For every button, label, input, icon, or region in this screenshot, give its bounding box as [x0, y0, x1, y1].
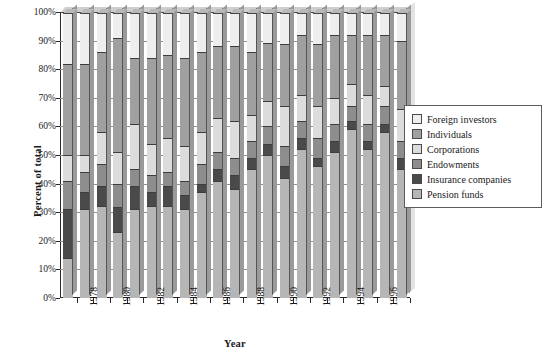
bar-3d-side	[122, 4, 127, 294]
bar	[63, 12, 73, 298]
legend-swatch-icon	[412, 129, 422, 139]
x-axis-tick-label: 1996	[389, 287, 399, 306]
bar	[363, 12, 373, 298]
legend-item: Endowments	[412, 158, 535, 170]
bar-3d-side	[206, 4, 211, 294]
x-axis-tick-label: 1978	[89, 287, 99, 306]
legend-item: Insurance companies	[412, 173, 535, 185]
bar-3d-side	[356, 4, 361, 294]
bar-3d-side	[239, 4, 244, 294]
y-axis-tick-label: 70%	[39, 93, 56, 103]
bar-3d-side	[156, 4, 161, 294]
legend: Foreign investorsIndividualsCorporations…	[404, 105, 542, 208]
x-axis-tick-label: 1990	[289, 287, 299, 306]
bar-3d-side	[306, 4, 311, 294]
x-axis-tick-label: 1992	[322, 287, 332, 306]
bar	[347, 12, 357, 298]
legend-swatch-icon	[412, 114, 422, 124]
legend-item: Corporations	[412, 143, 535, 155]
x-axis-tick-mark	[243, 298, 244, 303]
y-axis-tick-label: 30%	[39, 207, 56, 217]
bar	[280, 12, 290, 298]
y-axis-tick-label: 10%	[39, 264, 56, 274]
legend-item: Pension funds	[412, 188, 535, 200]
x-axis-tick-label: 1984	[189, 287, 199, 306]
y-axis-tick-label: 90%	[39, 36, 56, 46]
legend-item-label: Endowments	[427, 159, 479, 170]
bar-3d-side	[189, 4, 194, 294]
plot-area: 1978198019821984198619881990199219941996	[60, 12, 410, 298]
bar	[80, 12, 90, 298]
legend-swatch-icon	[412, 144, 422, 154]
bar-3d-side	[139, 4, 144, 294]
x-axis-tick-mark	[343, 298, 344, 303]
bar	[97, 12, 107, 298]
x-axis-title: Year	[60, 338, 410, 349]
y-axis-tick-label: 40%	[39, 179, 56, 189]
x-axis-tick-label: 1994	[356, 287, 366, 306]
y-axis-tick-labels: 0%10%20%30%40%50%60%70%80%90%100%	[12, 0, 56, 361]
legend-item-label: Insurance companies	[427, 174, 511, 185]
x-axis-tick-mark	[210, 298, 211, 303]
legend-item-label: Foreign investors	[427, 114, 497, 125]
legend-swatch-icon	[412, 174, 422, 184]
bar-3d-side	[89, 4, 94, 294]
bar-3d-side	[372, 4, 377, 294]
bar	[247, 12, 257, 298]
y-axis-tick-label: 50%	[39, 150, 56, 160]
y-axis-tick-label: 80%	[39, 64, 56, 74]
bar-3d-side	[106, 4, 111, 294]
x-axis-tick-mark	[277, 298, 278, 303]
bar	[180, 12, 190, 298]
bar-3d-side	[322, 4, 327, 294]
bar	[213, 12, 223, 298]
y-axis-tick-label: 0%	[43, 293, 56, 303]
bar	[130, 12, 140, 298]
x-axis-tick-label: 1988	[256, 287, 266, 306]
x-axis-tick-label: 1980	[122, 287, 132, 306]
legend-item: Individuals	[412, 128, 535, 140]
bar-3d-side	[72, 4, 77, 294]
bar	[163, 12, 173, 298]
bar	[113, 12, 123, 298]
bar	[263, 12, 273, 298]
bar-group	[60, 12, 410, 298]
legend-item-label: Corporations	[427, 144, 479, 155]
y-axis-tick-label: 20%	[39, 236, 56, 246]
x-axis-tick-label: 1986	[222, 287, 232, 306]
bar-3d-side	[289, 4, 294, 294]
x-axis-tick-mark	[110, 298, 111, 303]
bar	[380, 12, 390, 298]
bar	[147, 12, 157, 298]
x-axis-tick-mark	[377, 298, 378, 303]
bar	[197, 12, 207, 298]
x-axis-tick-mark	[177, 298, 178, 303]
bar-3d-side	[272, 4, 277, 294]
y-axis-tick-label: 100%	[34, 7, 56, 17]
legend-swatch-icon	[412, 159, 422, 169]
legend-item-label: Individuals	[427, 129, 472, 140]
bar-3d-side	[389, 4, 394, 294]
x-axis-tick-mark	[410, 298, 411, 303]
bar	[330, 12, 340, 298]
x-axis-tick-label: 1982	[156, 287, 166, 306]
y-axis-tick-label: 60%	[39, 121, 56, 131]
legend-item: Foreign investors	[412, 113, 535, 125]
bar-3d-side	[222, 4, 227, 294]
x-axis-tick-mark	[77, 298, 78, 303]
legend-item-label: Pension funds	[427, 189, 483, 200]
bar	[297, 12, 307, 298]
y-axis-tick-mark	[56, 298, 60, 299]
bar-3d-side	[339, 4, 344, 294]
bar-3d-side	[256, 4, 261, 294]
bar-3d-side	[172, 4, 177, 294]
stacked-bar-chart: Percent of total 0%10%20%30%40%50%60%70%…	[0, 0, 547, 361]
bar	[230, 12, 240, 298]
bar	[313, 12, 323, 298]
x-axis-tick-mark	[310, 298, 311, 303]
x-axis-tick-mark	[143, 298, 144, 303]
legend-swatch-icon	[412, 189, 422, 199]
